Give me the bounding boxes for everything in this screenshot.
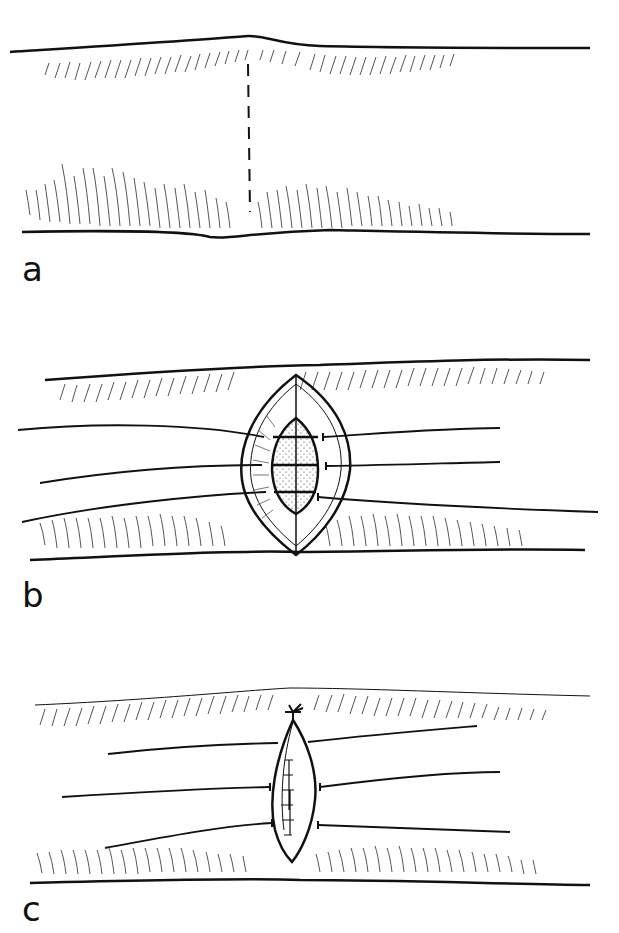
panel-label-c: c <box>22 892 41 926</box>
diagram-canvas <box>0 0 619 933</box>
panel-b-drawing <box>18 359 598 560</box>
panel-a-drawing <box>10 36 590 238</box>
panel-label-a: a <box>22 252 43 286</box>
panel-c-drawing <box>30 688 590 885</box>
panel-label-b: b <box>22 578 44 612</box>
